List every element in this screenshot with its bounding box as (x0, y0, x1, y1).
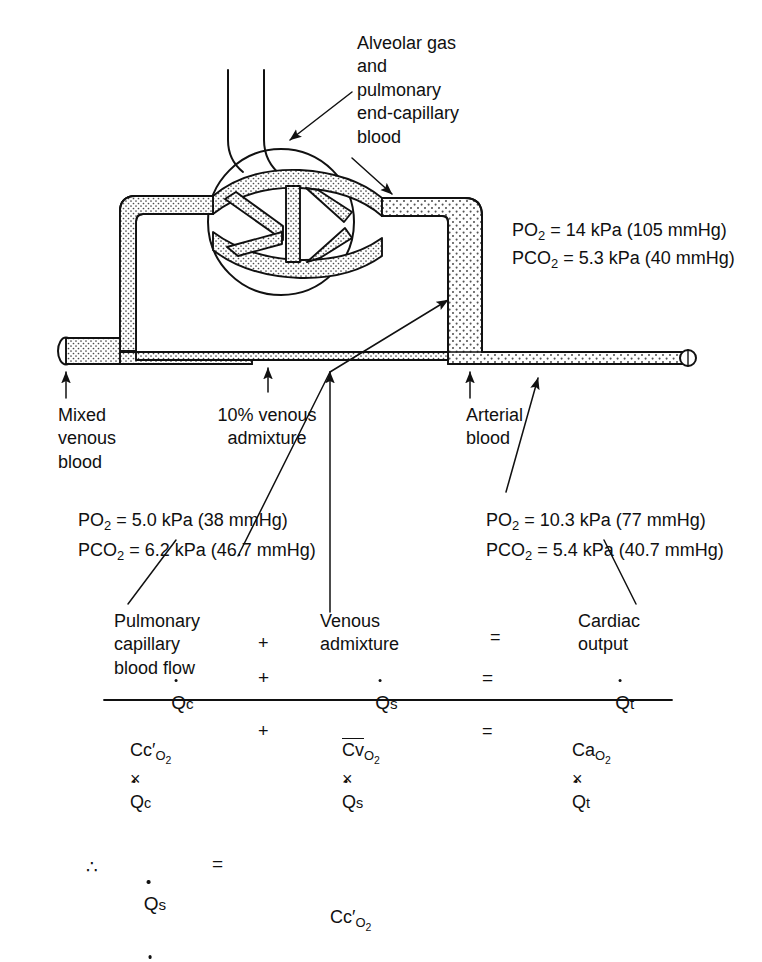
eq-content-plus: + (258, 720, 269, 743)
eq-word-term-cardiac-output: Cardiac output (578, 610, 640, 657)
eq-word-equals: = (490, 626, 501, 649)
pco2-symbol: PCO (486, 540, 525, 560)
qt-subscript: t (630, 695, 634, 712)
qt-symbol: Q (572, 792, 586, 812)
qc-symbol: Q (171, 692, 186, 713)
cc-prime-symbol: Cc′ (130, 740, 155, 760)
cv-bar-subscript-2: 2 (374, 755, 380, 766)
pco2-symbol: PCO (512, 248, 551, 268)
ca-subscript-2: 2 (605, 755, 611, 766)
label-end-capillary-pco2: PCO2 = 5.3 kPa (40 mmHg) (492, 224, 735, 297)
label-venous-admixture: 10% venous admixture (172, 404, 362, 451)
cc-prime-subscript-o: O (155, 749, 165, 764)
qc-subscript: c (144, 795, 151, 811)
qs-subscript: s (356, 795, 363, 811)
qt-symbol: Q (615, 692, 630, 713)
qc-symbol: Q (130, 792, 144, 812)
cv-bar-subscript-o: O (364, 749, 374, 764)
eq-word-plus: + (258, 632, 269, 655)
qs-symbol: Q (342, 792, 356, 812)
times-1: × (130, 769, 141, 789)
eq-final-equals: = (212, 852, 223, 877)
qs-symbol: Q (375, 692, 390, 713)
times-3: × (572, 769, 583, 789)
times-2: × (342, 769, 353, 789)
therefore-symbol: ∴ (86, 856, 97, 879)
pco2-value: = 5.3 kPa (40 mmHg) (558, 248, 735, 268)
eq-content-ca-qt: CaO2 × Qt (552, 716, 611, 838)
qs-subscript: s (390, 695, 398, 712)
eq-flow-plus: + (258, 666, 269, 691)
pco2-value: = 6.2 kPa (46.7 mmHg) (124, 540, 316, 560)
label-mixed-venous-blood: Mixed venous blood (58, 404, 116, 474)
qs-over-qt-numerator: Qs (139, 892, 171, 917)
eq-flow-equals: = (482, 666, 493, 691)
pco2-symbol: PCO (78, 540, 117, 560)
eq-word-term-venous-admixture: Venous admixture (320, 610, 399, 657)
eq-content-equals: = (482, 720, 493, 743)
figure-canvas: Alveolar gas and pulmonary end-capillary… (0, 0, 762, 962)
label-mixed-venous-pco2: PCO2 = 6.2 kPa (46.7 mmHg) (58, 516, 316, 589)
qt-subscript: t (586, 795, 590, 811)
pco2-value: = 5.4 kPa (40.7 mmHg) (532, 540, 724, 560)
label-arterial-pco2: PCO2 = 5.4 kPa (40.7 mmHg) (466, 516, 724, 589)
ca-subscript-o: O (595, 749, 605, 764)
eq-final-rhs-fraction: Cc′O2 — CaO2 Cc′O2 — CvO2 (266, 812, 375, 962)
cc-prime-subscript-2: 2 (165, 755, 171, 766)
ca-symbol: Ca (572, 740, 595, 760)
label-alveolar-gas: Alveolar gas and pulmonary end-capillary… (357, 32, 459, 149)
rhs-numerator: Cc′O2 — CaO2 (286, 882, 375, 962)
qc-subscript: c (186, 695, 194, 712)
label-arterial-blood: Arterial blood (466, 404, 523, 451)
eq-final-lhs-fraction: Qs Qt (118, 818, 171, 962)
cv-bar-symbol: Cv (342, 740, 364, 760)
